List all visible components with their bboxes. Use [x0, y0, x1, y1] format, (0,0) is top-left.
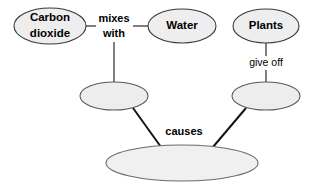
mixes-with-label-line1: mixes: [98, 12, 129, 24]
blank-left-ellipse[interactable]: [80, 82, 148, 110]
node-blank-bottom[interactable]: [106, 145, 258, 181]
blank-right-ellipse[interactable]: [232, 82, 300, 110]
edge-blank-left-to-blank-bottom: [133, 108, 161, 147]
diagram-canvas: Carbon dioxide Water Plants mixes wi: [0, 0, 316, 186]
node-blank-left[interactable]: [80, 82, 148, 110]
water-label: Water: [166, 19, 198, 31]
causes-label: causes: [165, 125, 202, 137]
give-off-label: give off: [249, 56, 283, 68]
concept-map-svg: Carbon dioxide Water Plants mixes wi: [0, 0, 316, 186]
node-water[interactable]: Water: [148, 9, 216, 43]
connector-label-mixes-with: mixes with: [96, 11, 133, 42]
node-blank-right[interactable]: [232, 82, 300, 110]
plants-label: Plants: [249, 19, 284, 31]
carbon-dioxide-label-line1: Carbon: [30, 11, 70, 23]
mixes-with-label-line2: with: [102, 27, 125, 39]
blank-bottom-ellipse[interactable]: [106, 145, 258, 181]
edge-blank-right-to-blank-bottom: [213, 108, 246, 147]
node-carbon-dioxide[interactable]: Carbon dioxide: [14, 8, 86, 44]
carbon-dioxide-label-line2: dioxide: [30, 27, 70, 39]
connector-label-give-off: give off: [243, 56, 290, 70]
node-plants[interactable]: Plants: [233, 9, 299, 43]
connector-label-causes: causes: [161, 125, 207, 139]
